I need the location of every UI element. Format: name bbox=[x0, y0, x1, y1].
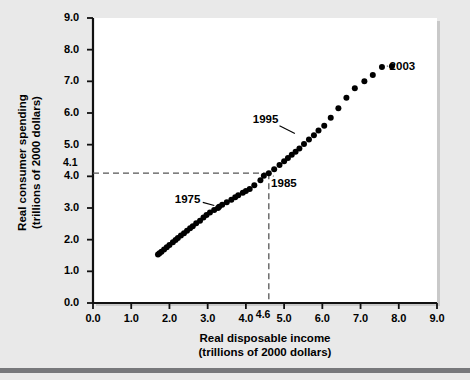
x-tick-label: 1.0 bbox=[114, 312, 148, 324]
data-point bbox=[271, 166, 277, 172]
x-tick-label: 7.0 bbox=[344, 312, 378, 324]
annotation-label-1975: 1975 bbox=[175, 193, 201, 205]
x-tick-label: 3.0 bbox=[191, 312, 225, 324]
data-point bbox=[335, 105, 341, 111]
x-tick-label: 5.0 bbox=[267, 312, 301, 324]
data-point bbox=[251, 182, 257, 188]
annotation-label-1985: 1985 bbox=[271, 177, 297, 189]
y-axis-title-line2: (trillions of 2000 dollars) bbox=[29, 73, 43, 253]
data-point bbox=[277, 162, 283, 168]
data-point bbox=[379, 64, 385, 70]
x-axis-title-line1: Real disposable income bbox=[93, 331, 437, 345]
data-point bbox=[328, 115, 334, 121]
bottom-rule bbox=[0, 368, 470, 373]
data-point bbox=[370, 72, 376, 78]
y-axis-title: Real consumer spending (trillions of 200… bbox=[16, 73, 43, 253]
x-reference-value-label: 4.6 bbox=[256, 308, 271, 320]
annotation-label-2003: 2003 bbox=[390, 60, 416, 72]
x-axis-title-line2: (trillions of 2000 dollars) bbox=[93, 345, 437, 359]
leader-line-1995 bbox=[280, 126, 295, 134]
data-points bbox=[155, 63, 395, 257]
axis-ticks bbox=[87, 18, 437, 309]
data-point bbox=[266, 170, 272, 176]
y-tick-label: 0.0 bbox=[45, 296, 79, 308]
y-tick-label: 3.0 bbox=[45, 201, 79, 213]
x-axis-title: Real disposable income (trillions of 200… bbox=[93, 331, 437, 359]
y-tick-label: 2.0 bbox=[45, 233, 79, 245]
y-tick-label: 7.0 bbox=[45, 74, 79, 86]
data-point bbox=[247, 186, 253, 192]
y-tick-label: 4.0 bbox=[45, 169, 79, 181]
y-tick-label: 8.0 bbox=[45, 43, 79, 55]
data-point bbox=[301, 141, 307, 147]
chart-figure: 0.01.02.03.04.05.06.07.08.09.00.01.02.03… bbox=[0, 0, 470, 380]
x-tick-label: 6.0 bbox=[305, 312, 339, 324]
data-point bbox=[296, 145, 302, 151]
annotation-label-1995: 1995 bbox=[253, 113, 279, 125]
y-axis-title-line1: Real consumer spending bbox=[16, 73, 30, 253]
data-point bbox=[306, 137, 312, 143]
y-tick-label: 6.0 bbox=[45, 106, 79, 118]
data-point bbox=[361, 78, 367, 84]
y-tick-label: 5.0 bbox=[45, 138, 79, 150]
data-point bbox=[316, 127, 322, 133]
data-point bbox=[343, 95, 349, 101]
x-tick-label: 2.0 bbox=[152, 312, 186, 324]
data-point bbox=[311, 132, 317, 138]
data-point bbox=[352, 85, 358, 91]
y-reference-value-label: 4.1 bbox=[63, 156, 78, 168]
x-tick-label: 8.0 bbox=[382, 312, 416, 324]
y-tick-label: 9.0 bbox=[45, 11, 79, 23]
leader-line-1975 bbox=[203, 202, 215, 205]
axes-lines bbox=[93, 18, 437, 303]
y-tick-label: 1.0 bbox=[45, 264, 79, 276]
data-point bbox=[321, 123, 327, 129]
x-tick-label: 9.0 bbox=[420, 312, 454, 324]
x-tick-label: 0.0 bbox=[76, 312, 110, 324]
